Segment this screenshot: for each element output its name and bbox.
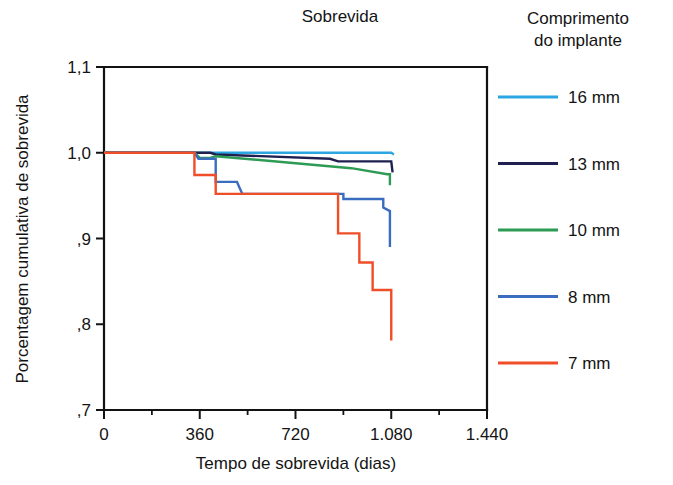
survival-curves [104, 153, 394, 341]
x-tick-labels: 03607201.0801.440 [99, 425, 508, 444]
plot-frame [104, 67, 487, 410]
y-tick-label-4: 1,1 [67, 58, 91, 77]
y-tick-label-1: ,8 [77, 315, 91, 334]
y-tick-labels: ,7,8,91,01,1 [67, 58, 91, 420]
x-tick-marks [104, 410, 487, 419]
x-tick-label-4: 1.440 [466, 425, 509, 444]
legend-label-13-mm: 13 mm [568, 155, 620, 174]
chart-title: Sobrevida [302, 7, 379, 26]
curve-13-mm [104, 153, 393, 173]
legend-label-10-mm: 10 mm [568, 221, 620, 240]
x-axis-label: Tempo de sobrevida (dias) [196, 454, 396, 473]
legend-title-line-2: do implante [534, 31, 622, 50]
x-tick-label-3: 1.080 [370, 425, 413, 444]
survival-chart-figure: Sobrevida ,7,8,91,01,1 03607201.0801.440… [0, 0, 673, 485]
y-axis-label: Porcentagem cumulativa de sobrevida [13, 94, 32, 384]
legend-entries: 16 mm13 mm10 mm8 mm7 mm [498, 88, 620, 373]
y-axis: ,7,8,91,01,1 [67, 58, 104, 420]
x-tick-label-0: 0 [99, 425, 108, 444]
y-tick-label-0: ,7 [77, 401, 91, 420]
legend: Comprimento do implante 16 mm13 mm10 mm8… [498, 9, 629, 373]
legend-title-line-1: Comprimento [527, 9, 629, 28]
curve-10-mm [104, 153, 390, 186]
y-tick-label-3: 1,0 [67, 144, 91, 163]
legend-label-8-mm: 8 mm [568, 288, 611, 307]
curve-7-mm [104, 153, 391, 341]
x-tick-label-2: 720 [281, 425, 309, 444]
legend-label-16-mm: 16 mm [568, 88, 620, 107]
x-axis: 03607201.0801.440 [99, 410, 508, 444]
chart-canvas: Sobrevida ,7,8,91,01,1 03607201.0801.440… [0, 0, 673, 485]
legend-label-7-mm: 7 mm [568, 354, 611, 373]
x-tick-label-1: 360 [186, 425, 214, 444]
y-tick-marks [96, 67, 104, 410]
y-tick-label-2: ,9 [77, 230, 91, 249]
